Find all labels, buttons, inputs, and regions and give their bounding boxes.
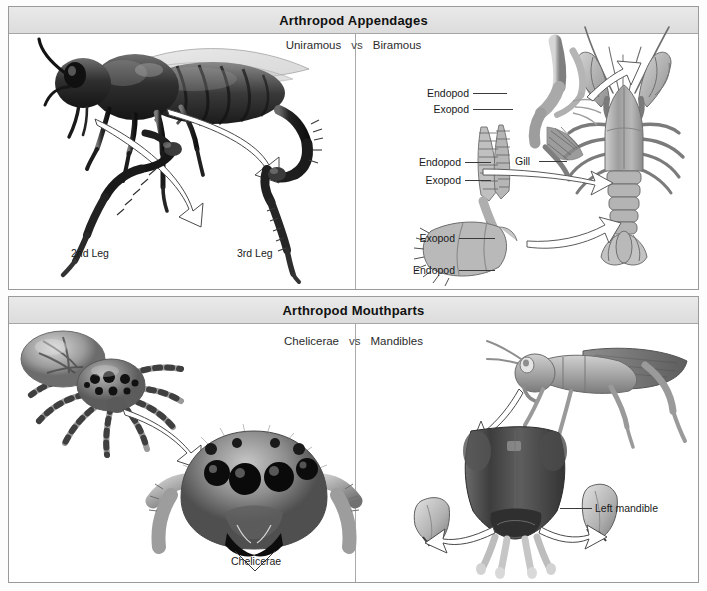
panel-arthropod-mouthparts: Arthropod Mouthparts CheliceraevsMandibl…: [8, 296, 699, 583]
chelicerae-label: Chelicerae: [231, 555, 281, 567]
walking-leg-endopod-label: Endopod: [407, 87, 469, 99]
maxilliped-detail: [478, 125, 510, 231]
maxillary-palps: [476, 537, 556, 579]
gill-leader: [539, 161, 567, 162]
panel-arthropod-appendages: Arthropod Appendages UniramousvsBiramous: [8, 6, 699, 290]
figure-plate: Arthropod Appendages UniramousvsBiramous: [0, 0, 707, 591]
swimmeret-exopod-leader: [459, 238, 495, 239]
left-mandible-label: Left mandible: [595, 502, 658, 514]
mandibles-subtitle-label: Mandibles: [371, 335, 423, 347]
maxilliped-exopod-leader: [465, 180, 491, 181]
gill-plume: [545, 127, 583, 179]
swimmeret-endopod-leader: [459, 270, 495, 271]
walking-leg-with-gill: [534, 41, 601, 179]
maxilliped-endopod-leader: [465, 162, 491, 163]
spider-face-dome: [181, 424, 327, 549]
chelicerae-subtitle-label: Chelicerae: [284, 335, 339, 347]
gill-label: Gill: [515, 155, 530, 167]
spider-cephalothorax: [77, 359, 145, 413]
swimmeret-endopod-label: Endopod: [397, 264, 455, 276]
left-mandible-leader: [560, 508, 592, 509]
walking-leg-exopod-label: Exopod: [407, 103, 469, 115]
head-capsule: [463, 427, 567, 539]
spider-face-magnified: [149, 425, 369, 575]
maxilliped-endopod-label: Endopod: [399, 156, 461, 168]
panel-mouthparts-title: Arthropod Mouthparts: [9, 297, 698, 324]
leg-bristles: [267, 120, 323, 251]
leg-2-label: 2nd Leg: [71, 247, 109, 259]
grasshopper-antennae: [487, 341, 523, 365]
walking-leg-endopod-leader: [473, 93, 507, 94]
vs-label-mouthparts: vs: [349, 335, 361, 347]
walking-leg-exopod-leader: [473, 109, 513, 110]
crayfish-appendage-details: [359, 35, 609, 287]
swimmeret-detail: [414, 221, 517, 286]
maxilliped-exopod-label: Exopod: [399, 174, 461, 186]
grasshopper-head-frontal: [399, 425, 629, 575]
leg-3-label: 3rd Leg: [237, 247, 273, 259]
swimmeret-exopod-label: Exopod: [397, 232, 455, 244]
panel-appendages-divider: [355, 34, 356, 289]
